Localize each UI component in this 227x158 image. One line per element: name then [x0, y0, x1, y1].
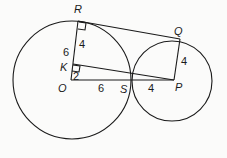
label-point-Q: Q: [174, 25, 183, 37]
label-length-KO: 2: [73, 70, 79, 82]
geometry-diagram: R Q K O S P 4 6 2 6 4 4: [0, 0, 227, 158]
segment-QP: [174, 39, 180, 80]
label-point-S: S: [120, 83, 128, 95]
label-point-O: O: [58, 82, 67, 94]
right-angle-marker-R: [78, 22, 86, 30]
small-circle: [132, 41, 212, 121]
label-length-RO: 6: [63, 46, 69, 58]
label-point-K: K: [60, 61, 68, 73]
label-length-OS: 6: [98, 82, 104, 94]
segment-KP: [73, 64, 174, 80]
label-point-R: R: [74, 3, 82, 15]
label-length-RK: 4: [79, 38, 85, 50]
label-length-SP: 4: [148, 82, 154, 94]
diagram-svg: R Q K O S P 4 6 2 6 4 4: [0, 0, 227, 158]
label-point-P: P: [175, 81, 183, 93]
label-length-QP: 4: [181, 55, 187, 67]
tangent-RQ: [78, 21, 180, 39]
